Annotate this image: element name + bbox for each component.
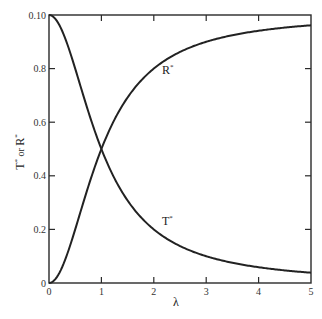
r-star-curve [49,25,311,283]
curves [49,15,311,283]
x-axis-ticks: 012345 [47,15,314,297]
x-tick-label: 2 [151,286,156,297]
y-tick-label: 0.8 [34,63,47,74]
chart: 012345 00.20.40.60.80.10 R* T* λ T* or R… [0,0,322,319]
t-star-label: T* [162,214,173,228]
y-tick-label: 0.4 [34,170,47,181]
x-tick-label: 0 [47,286,52,297]
r-star-label: R* [162,63,174,77]
y-tick-label: 0.2 [34,224,47,235]
x-tick-label: 1 [99,286,104,297]
y-tick-label: 0.10 [29,10,47,21]
y-tick-label: 0 [41,278,46,289]
plot-frame [49,15,311,283]
y-tick-label: 0.6 [34,117,47,128]
x-axis-title: λ [173,295,179,309]
t-star-curve [49,15,311,273]
y-axis-title: T* or R* [13,134,27,170]
x-tick-label: 5 [309,286,314,297]
x-tick-label: 4 [256,286,261,297]
y-axis-ticks: 00.20.40.60.80.10 [29,10,312,289]
x-tick-label: 3 [204,286,209,297]
